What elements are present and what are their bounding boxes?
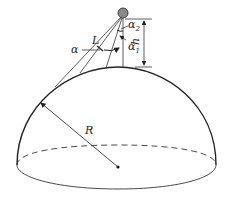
sight-line-label: L bbox=[91, 34, 99, 47]
sight-line-middle bbox=[80, 18, 121, 73]
observer-sphere bbox=[118, 8, 128, 18]
alpha-label: α bbox=[71, 43, 79, 56]
alpha1-arc bbox=[104, 48, 119, 51]
base-ellipse-back bbox=[17, 145, 216, 165]
alpha2-label: α2 bbox=[128, 18, 140, 33]
base-ellipse-front bbox=[17, 165, 216, 189]
radius-label: R bbox=[84, 124, 93, 137]
hemisphere-diagram: R h α α1 α2 L bbox=[0, 0, 236, 204]
alpha2-pointer bbox=[121, 26, 128, 29]
radius-line bbox=[41, 103, 118, 167]
sight-line-near bbox=[106, 18, 122, 68]
